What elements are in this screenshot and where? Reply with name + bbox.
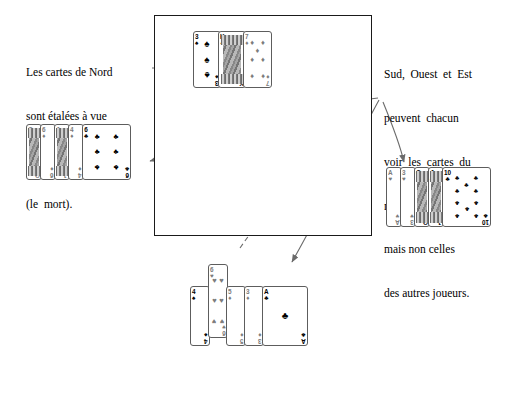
card-pip: ♠ bbox=[204, 39, 209, 49]
card-pip: ♣ bbox=[282, 311, 289, 321]
playing-card[interactable]: 6♣6♣♣♣♣♣♣♣ bbox=[82, 124, 131, 180]
playing-card[interactable]: 3♠3♠♠♠♠ bbox=[193, 31, 221, 88]
card-pip: ♣ bbox=[455, 200, 459, 207]
playing-card[interactable]: 6♥6♥♥♥♥♥♥♥ bbox=[208, 264, 228, 338]
card-pip: ♣ bbox=[455, 175, 459, 182]
card-pip: ♥ bbox=[219, 277, 223, 285]
caption-line: Sud, Ouest et Est bbox=[384, 67, 472, 82]
card-index-tl: 3♥ bbox=[402, 170, 406, 183]
card-pip: ♦ bbox=[261, 56, 265, 64]
caption-line: sont étalées à vue bbox=[26, 109, 113, 124]
caption-line: Les cartes de Nord bbox=[26, 65, 113, 80]
card-pips: ♦♦♦♦♦♦♦ bbox=[244, 32, 271, 87]
card-pip: ♣ bbox=[474, 200, 478, 207]
court-card-band bbox=[430, 171, 442, 181]
card-pip: ♣ bbox=[455, 187, 459, 194]
card-pip: ♣ bbox=[464, 182, 468, 189]
card-pips: ♣ bbox=[263, 287, 307, 345]
card-pip: ♣ bbox=[455, 213, 459, 220]
court-card-band bbox=[430, 212, 442, 222]
court-card-band bbox=[28, 128, 40, 138]
playing-card[interactable]: 5♦5♦ bbox=[226, 286, 246, 346]
card-index-tl: 4♠ bbox=[192, 289, 196, 302]
playing-card[interactable]: 4♠4♠ bbox=[190, 286, 210, 346]
court-card-band bbox=[56, 128, 68, 138]
playing-card[interactable]: 3♦3♦ bbox=[244, 286, 264, 346]
court-card-band bbox=[28, 166, 40, 176]
card-pip: ♣ bbox=[113, 163, 118, 171]
court-card-band bbox=[56, 166, 68, 176]
court-card-band bbox=[416, 212, 428, 222]
card-pips: ♠♠♠ bbox=[194, 32, 220, 87]
caption-line: mais non celles bbox=[384, 242, 472, 257]
card-index-tl: 3♦ bbox=[246, 289, 250, 302]
playing-card[interactable]: 7♦7♦♦♦♦♦♦♦♦ bbox=[243, 31, 272, 88]
card-pips: ♥♥♥♥♥♥ bbox=[209, 265, 227, 337]
card-pip: ♠ bbox=[204, 70, 209, 80]
card-pip: ♦ bbox=[250, 39, 254, 47]
card-pip: ♥ bbox=[219, 297, 223, 305]
card-pip: ♦ bbox=[250, 56, 254, 64]
card-pip: ♣ bbox=[113, 148, 118, 156]
card-pip: ♣ bbox=[95, 133, 100, 141]
card-index-tl: 4♦ bbox=[70, 127, 74, 140]
card-pip: ♦ bbox=[256, 48, 260, 56]
card-pip: ♣ bbox=[474, 187, 478, 194]
court-card-band bbox=[221, 35, 243, 45]
card-pip: ♣ bbox=[113, 133, 118, 141]
card-pip: ♥ bbox=[212, 277, 216, 285]
card-pip: ♦ bbox=[261, 72, 265, 80]
card-pips: ♣♣♣♣♣♣ bbox=[83, 125, 130, 179]
card-pip: ♣ bbox=[464, 205, 468, 212]
card-pip: ♣ bbox=[95, 163, 100, 171]
court-card-band bbox=[416, 171, 428, 181]
playing-card[interactable]: 10♣10♣♣♣♣♣♣♣♣♣♣♣ bbox=[442, 167, 491, 227]
card-pip: ♦ bbox=[250, 72, 254, 80]
card-pips: ♣♣♣♣♣♣♣♣♣♣ bbox=[443, 168, 490, 226]
card-pip: ♠ bbox=[204, 55, 209, 65]
card-pip: ♥ bbox=[212, 317, 216, 325]
playing-card[interactable]: A♣A♣♣ bbox=[262, 286, 308, 346]
caption-line: (le mort). bbox=[26, 197, 113, 212]
card-pip: ♣ bbox=[474, 213, 478, 220]
caption-line: des autres joueurs. bbox=[384, 286, 472, 301]
card-pip: ♥ bbox=[212, 297, 216, 305]
playing-card[interactable]: K♠K♠ bbox=[218, 31, 246, 88]
card-index-tl: A♥ bbox=[388, 170, 393, 183]
court-card-band bbox=[221, 74, 243, 84]
card-pip: ♣ bbox=[95, 148, 100, 156]
card-pip: ♣ bbox=[474, 175, 478, 182]
card-index-tl: 5♦ bbox=[228, 289, 232, 302]
caption-line: peuvent chacun bbox=[384, 111, 472, 126]
card-pip: ♦ bbox=[261, 39, 265, 47]
card-index-tl: 6♦ bbox=[42, 127, 46, 140]
card-pip: ♥ bbox=[219, 317, 223, 325]
